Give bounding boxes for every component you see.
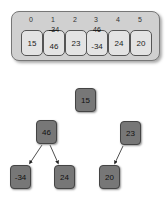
tree-node: -34 (10, 165, 31, 189)
tree-node: 46 (36, 120, 57, 144)
tree-node: 24 (54, 165, 75, 189)
tree-node: 15 (75, 88, 96, 112)
tree-node: 20 (99, 165, 120, 189)
tree-node: 23 (120, 121, 141, 145)
